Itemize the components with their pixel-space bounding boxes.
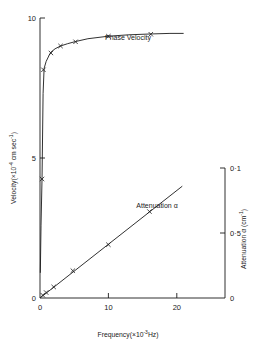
right-axis-title: Attenuation α (cm-1): [238, 209, 248, 269]
left-axis-tick-label: 5: [32, 154, 36, 163]
right-axis-tick-label: 0·1: [230, 164, 241, 173]
data-point-marker: [44, 290, 48, 294]
phase-velocity-curve: [40, 33, 183, 272]
left-axis-tick-label: 0: [32, 294, 36, 303]
data-point-marker: [147, 209, 151, 213]
right-axis-tick-label: 0: [230, 294, 234, 303]
x-axis-title: Frequency(×10-3Hz): [98, 329, 159, 339]
phase-velocity-label: Phase Velocity: [105, 34, 151, 42]
left-axis-tick-label: 10: [28, 14, 36, 23]
data-point-marker: [41, 68, 45, 72]
attenuation-label: Attenuation α: [136, 202, 177, 209]
x-axis-tick-label: 0: [38, 303, 42, 312]
figure-container: 051000·50·101020Velocity(×10-4 cm sec-1)…: [0, 0, 256, 349]
x-axis-tick-label: 10: [104, 303, 112, 312]
data-point-marker: [58, 44, 62, 48]
dual-axis-chart: 051000·50·101020Velocity(×10-4 cm sec-1)…: [0, 0, 256, 349]
left-axis-title: Velocity(×10-4 cm sec-1): [8, 132, 18, 204]
x-axis-tick-label: 20: [173, 303, 181, 312]
data-point-marker: [106, 243, 110, 247]
data-point-marker: [51, 285, 55, 289]
data-point-marker: [49, 51, 53, 55]
